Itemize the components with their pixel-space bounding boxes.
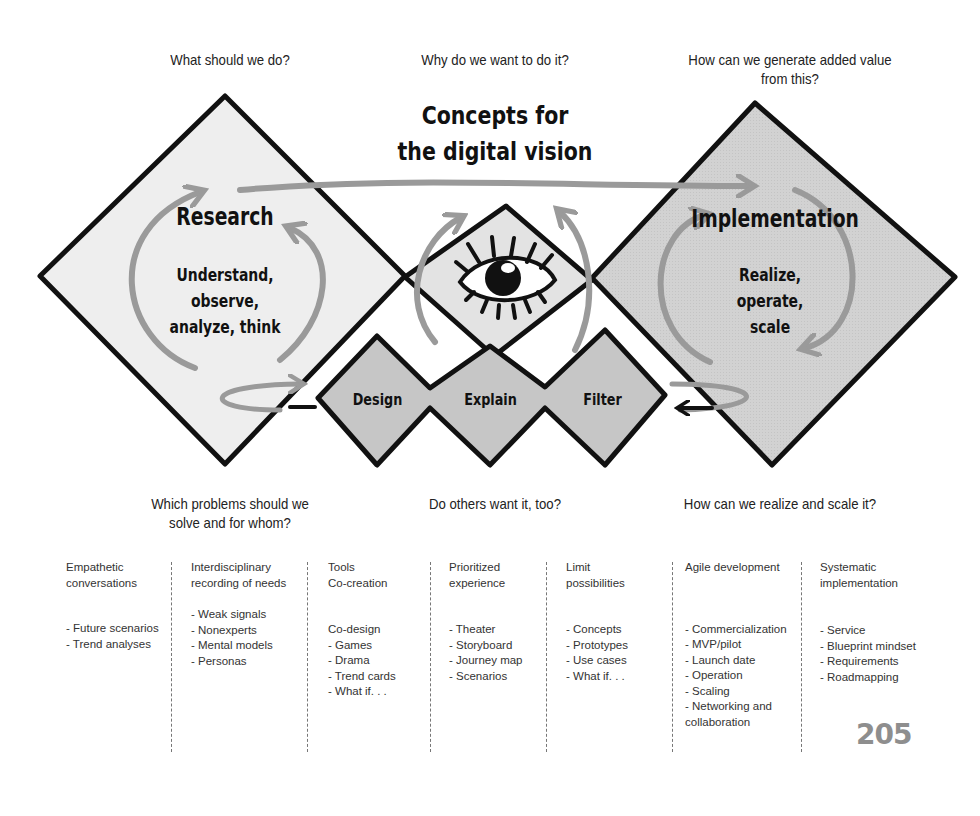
column-divider [307,562,308,752]
question-others: Do others want it, too? [403,494,588,513]
diagram-title: Concepts for the digital vision [384,98,605,170]
column-divider [546,562,547,752]
column-heading: Limit possibilities [566,560,628,591]
column-heading: Prioritized experience [449,560,523,591]
question-problems: Which problems should we solve and for w… [124,494,335,532]
list-item: - What if. . . [566,669,628,685]
implementation-line2: operate, [713,288,828,314]
research-description: Understand, observe, analyze, think [155,262,294,340]
list-item: - Trend cards [328,669,396,685]
column-divider [672,562,673,752]
column-heading: Systematic implementation [820,560,916,591]
column-list: - Commercialization - MVP/pilot - Launch… [685,622,787,731]
step-design: Design [344,390,412,409]
list-item: - Scaling [685,684,787,700]
question-realize: How can we realize and scale it? [666,494,895,513]
column-divider [430,562,431,752]
implementation-title: Implementation [685,205,864,233]
list-item: - Blueprint mindset [820,639,916,655]
list-item: - Drama [328,653,396,669]
implementation-line1: Realize, [713,262,828,288]
list-item: - Storyboard [449,638,523,654]
question-problems-line1: Which problems should we [124,494,335,513]
list-item: - Weak signals [191,607,286,623]
list-item: - Trend analyses [66,637,159,653]
column-2: Interdisciplinary recording of needs - W… [191,560,286,669]
list-item: - Operation [685,668,787,684]
list-item: - Theater [449,622,523,638]
research-title: Research [159,203,292,231]
list-item: - Commercialization [685,622,787,638]
list-item: - Games [328,638,396,654]
column-7: Systematic implementation - Service - Bl… [820,560,916,685]
list-item: - Prototypes [566,638,628,654]
column-list: - Weak signals - Nonexperts - Mental mod… [191,607,286,669]
list-item: - Personas [191,654,286,670]
list-item: Co-design [328,622,396,638]
column-4: Prioritized experience - Theater - Story… [449,560,523,684]
column-divider [171,562,172,752]
diagram-title-line2: the digital vision [384,134,605,170]
implementation-line3: scale [713,314,828,340]
research-line3: analyze, think [155,314,294,340]
column-divider [801,562,802,752]
list-item: - Nonexperts [191,623,286,639]
list-item: - Scenarios [449,669,523,685]
column-list: - Theater - Storyboard - Journey map - S… [449,622,523,684]
step-explain: Explain [457,390,525,409]
column-heading: Interdisciplinary recording of needs [191,560,286,591]
column-3: Tools Co-creation Co-design - Games - Dr… [328,560,396,700]
list-item: - Launch date [685,653,787,669]
column-heading: Empathetic conversations [66,560,159,591]
list-item: - Future scenarios [66,621,159,637]
list-item: - Requirements [820,654,916,670]
list-item: - Mental models [191,638,286,654]
column-1: Empathetic conversations - Future scenar… [66,560,159,652]
column-heading: Agile development [685,560,787,576]
column-list: - Service - Blueprint mindset - Requirem… [820,623,916,685]
column-list: Co-design - Games - Drama - Trend cards … [328,622,396,700]
page-number: 205 [856,718,911,751]
column-6: Agile development - Commercialization - … [685,560,787,730]
column-5: Limit possibilities - Concepts - Prototy… [566,560,628,684]
list-item: - Concepts [566,622,628,638]
research-line1: Understand, [155,262,294,288]
list-item: - Roadmapping [820,670,916,686]
column-heading: Tools Co-creation [328,560,396,591]
list-item: - Networking and collaboration [685,699,787,730]
list-item: - What if. . . [328,684,396,700]
column-list: - Concepts - Prototypes - Use cases - Wh… [566,622,628,684]
list-item: - Journey map [449,653,523,669]
step-filter: Filter [569,390,637,409]
question-problems-line2: solve and for whom? [124,513,335,532]
implementation-description: Realize, operate, scale [713,262,828,340]
list-item: - Use cases [566,653,628,669]
list-item: - Service [820,623,916,639]
column-list: - Future scenarios - Trend analyses [66,621,159,652]
diagram-title-line1: Concepts for [384,98,605,134]
list-item: - MVP/pilot [685,637,787,653]
research-line2: observe, [155,288,294,314]
